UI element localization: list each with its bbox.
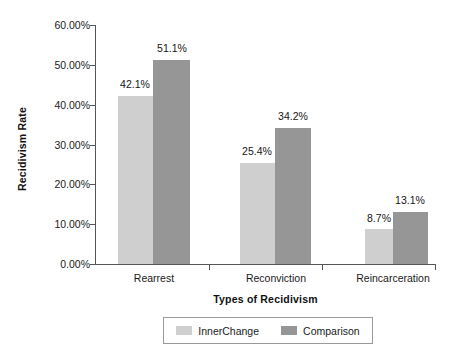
y-tick-mark-0 bbox=[90, 264, 95, 265]
bar-value-rearrest-comparison: 51.1% bbox=[143, 42, 201, 54]
bar-reconviction-innerchange[interactable] bbox=[240, 163, 275, 264]
bar-value-reincarceration-innerchange: 8.7% bbox=[354, 212, 404, 224]
legend-label-innerchange: InnerChange bbox=[198, 325, 259, 337]
legend-swatch-innerchange bbox=[176, 326, 192, 335]
x-tick-label-reincarceration: Reincarceration bbox=[341, 272, 445, 284]
legend-entry-comparison[interactable]: Comparison bbox=[281, 325, 360, 337]
legend-entry-innerchange[interactable]: InnerChange bbox=[176, 325, 259, 337]
bar-rearrest-comparison[interactable] bbox=[153, 60, 190, 264]
x-axis-line bbox=[95, 264, 436, 265]
bar-value-rearrest-innerchange: 42.1% bbox=[106, 78, 164, 90]
x-tick-mark-3 bbox=[435, 265, 436, 270]
bar-value-reconviction-innerchange: 25.4% bbox=[228, 145, 286, 157]
x-tick-label-reconviction: Reconviction bbox=[232, 272, 320, 284]
recidivism-bar-chart: Recidivism Rate 60.00% 50.00% 40.00% 30.… bbox=[0, 0, 458, 361]
bar-value-reincarceration-comparison: 13.1% bbox=[384, 194, 436, 206]
bar-value-reconviction-comparison: 34.2% bbox=[264, 110, 322, 122]
legend-swatch-comparison bbox=[281, 326, 297, 335]
x-axis-title: Types of Recidivism bbox=[95, 293, 436, 305]
bar-rearrest-innerchange[interactable] bbox=[118, 96, 153, 264]
x-tick-mark-2 bbox=[322, 265, 323, 270]
legend-label-comparison: Comparison bbox=[303, 325, 360, 337]
x-tick-label-rearrest: Rearrest bbox=[124, 272, 184, 284]
bar-reincarceration-innerchange[interactable] bbox=[365, 229, 393, 264]
x-tick-mark-1 bbox=[209, 265, 210, 270]
chart-legend: InnerChange Comparison bbox=[163, 317, 373, 344]
